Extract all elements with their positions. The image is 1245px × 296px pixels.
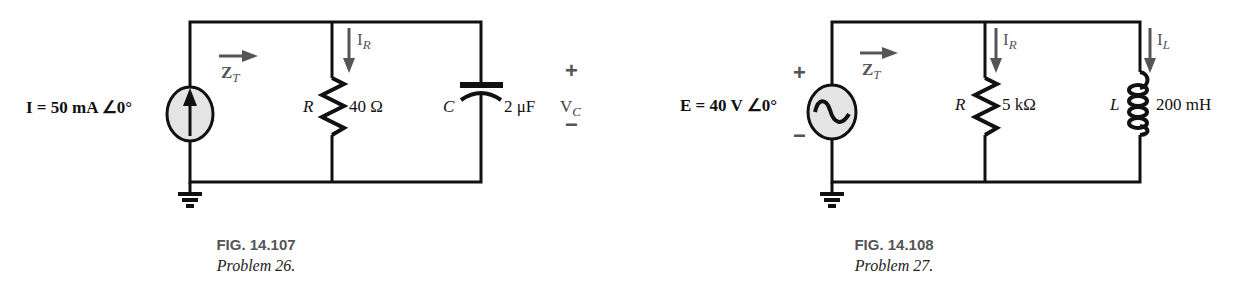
capacitor-value: 2 μF (504, 97, 535, 117)
figure-caption-title: FIG. 14.107 (156, 236, 356, 253)
voltage-plus-sign: + (565, 58, 578, 84)
current-arrow-ir (990, 28, 1002, 73)
impedance-arrow (860, 47, 898, 59)
impedance-arrow (219, 50, 258, 62)
inductor-symbol (1129, 72, 1148, 135)
resistor-symbol-label: R (303, 97, 313, 117)
figure-14-107: I = 50 mA ∠0° ZT IR R 40 Ω C 2 μF + VC −… (0, 0, 620, 296)
figure-caption-subtitle: Problem 26. (156, 257, 356, 275)
current-label-il: IL (1157, 30, 1170, 50)
capacitor-symbol-label: C (443, 97, 454, 117)
inductor-value: 200 mH (1156, 95, 1211, 115)
figure-14-108: + − E = 40 V ∠0° ZT IR IL R 5 kΩ L 200 m… (620, 0, 1245, 296)
resistor-symbol-label: R (955, 95, 965, 115)
current-label-ir: IR (357, 30, 371, 50)
current-source (167, 87, 213, 141)
ground-icon (820, 182, 844, 208)
source-label: I = 50 mA ∠0° (26, 97, 132, 118)
ground-icon (178, 182, 202, 208)
impedance-label: ZT (221, 63, 240, 83)
figure-caption-subtitle: Problem 27. (794, 257, 994, 275)
source-plus-sign: + (793, 60, 806, 86)
resistor-value: 5 kΩ (1002, 95, 1036, 115)
source-minus-sign: − (793, 123, 806, 149)
current-arrow-ir (290, 0, 355, 73)
resistor-value: 40 Ω (349, 97, 383, 117)
figure-caption-title: FIG. 14.108 (794, 236, 994, 253)
current-arrow-il (1144, 28, 1156, 73)
voltage-minus-sign: − (565, 112, 578, 138)
resistor-symbol (322, 78, 344, 135)
resistor-symbol (975, 78, 997, 135)
ac-voltage-source (808, 85, 856, 139)
impedance-label: ZT (862, 60, 881, 80)
current-label-ir: IR (1003, 30, 1017, 50)
inductor-symbol-label: L (1110, 95, 1119, 115)
source-label: E = 40 V ∠0° (680, 95, 777, 116)
